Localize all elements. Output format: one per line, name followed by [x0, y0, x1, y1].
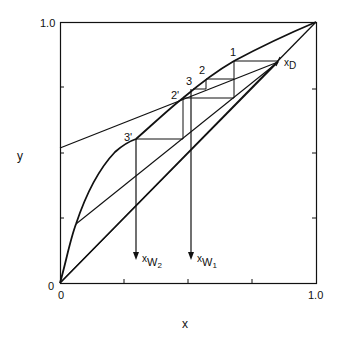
stage-steps	[136, 61, 278, 139]
xw1-label: xW1	[197, 253, 217, 270]
upper-operating-line	[60, 62, 278, 148]
xw1-arrow	[188, 89, 194, 260]
xw2-arrow	[133, 139, 139, 260]
y-axis-origin-label: 0	[48, 280, 54, 292]
x-axis-ticks	[124, 279, 252, 283]
x-axis-title: x	[182, 317, 188, 331]
x-axis-origin-label: 0	[58, 289, 64, 301]
origin-to-xd-line	[60, 62, 278, 283]
stage-label-1: 1	[230, 46, 236, 58]
y-axis-top-label: 1.0	[40, 17, 55, 29]
xw2-label: xW2	[142, 253, 162, 270]
stage-label-3: 3	[186, 75, 192, 87]
stage-label-2-prime: 2'	[171, 89, 179, 101]
x-axis-end-label: 1.0	[308, 289, 323, 301]
stage-label-3-prime: 3'	[124, 131, 132, 143]
stage-label-2: 2	[199, 64, 205, 76]
mccabe-thiele-diagram: 1.0 0 0 1.0 x y 1 2 3 2' 3' xD xW1 xW2	[0, 0, 346, 345]
lower-operating-line	[76, 62, 278, 224]
y-axis-title: y	[17, 149, 23, 163]
xd-label: xD	[284, 57, 296, 71]
